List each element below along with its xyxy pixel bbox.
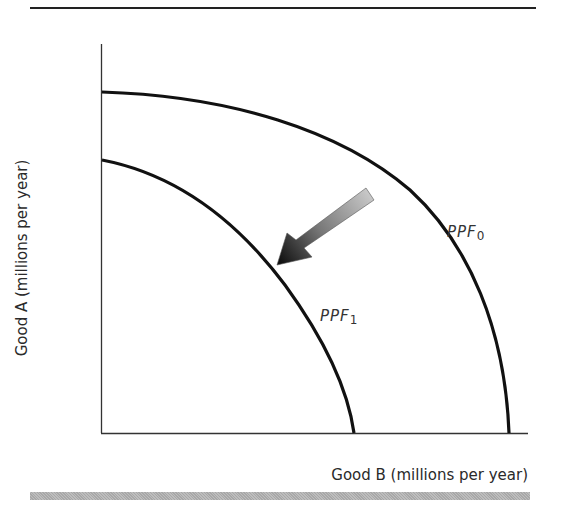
x-axis-label: Good B (millions per year): [331, 466, 528, 484]
ppf1-label-base: PPF: [320, 307, 350, 325]
bottom-rule: [30, 492, 530, 500]
ppf1-label-sub: 1: [350, 313, 358, 327]
ppf0-label-sub: 0: [477, 229, 485, 243]
ppf-plot: [0, 0, 586, 521]
shift-arrow-icon: [277, 188, 374, 265]
ppf0-label: PPF0: [447, 223, 484, 243]
ppf0-label-base: PPF: [447, 223, 477, 241]
y-axis-label: Good A (millions per year): [13, 160, 31, 357]
ppf0-curve: [102, 92, 509, 433]
ppf1-curve: [102, 160, 354, 433]
ppf1-label: PPF1: [320, 307, 357, 327]
